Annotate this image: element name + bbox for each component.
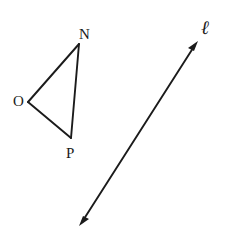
line-l-arrowhead-upper — [188, 41, 198, 51]
triangle-onp — [28, 44, 79, 138]
edge-on — [28, 44, 79, 102]
vertex-label-p: P — [66, 146, 74, 161]
edge-np — [71, 44, 79, 138]
vertex-label-o: O — [13, 94, 24, 109]
line-l — [79, 41, 198, 226]
geometry-figure: N O P ℓ — [0, 0, 228, 236]
vertex-label-n: N — [79, 27, 90, 42]
line-l-arrowhead-lower — [79, 216, 89, 226]
line-label-l: ℓ — [201, 18, 209, 37]
line-l-shaft — [82, 45, 195, 222]
edge-op — [28, 102, 71, 138]
figure-canvas — [0, 0, 228, 236]
